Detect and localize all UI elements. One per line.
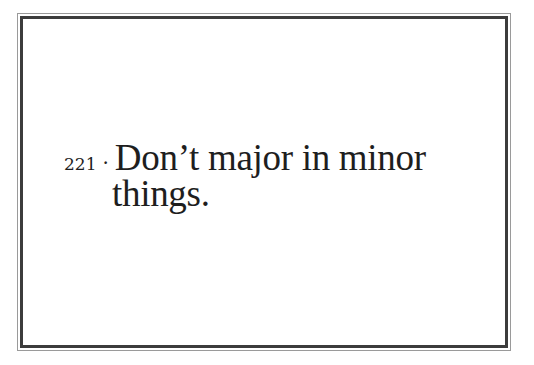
quote-text-line2: things. <box>64 176 484 212</box>
quote-block: 221 · Don’t major in minor things. <box>64 140 484 212</box>
separator-dot: · <box>102 151 108 175</box>
entry-number: 221 <box>64 154 96 174</box>
quote-text-line1: Don’t major in minor <box>115 140 426 176</box>
quote-first-line: 221 · Don’t major in minor <box>64 140 484 176</box>
